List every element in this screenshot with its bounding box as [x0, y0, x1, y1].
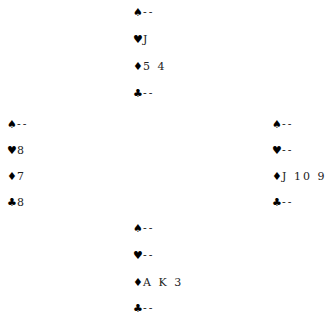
heart-icon: ♥	[272, 144, 282, 158]
spade-icon: ♠	[7, 118, 17, 132]
west-hearts-row: ♥8	[7, 144, 26, 158]
east-clubs-cards: --	[282, 196, 293, 209]
east-hearts-cards: --	[282, 144, 293, 157]
south-spades-cards: --	[143, 222, 154, 235]
club-icon: ♣	[133, 87, 143, 101]
south-clubs-row: ♣--	[133, 302, 154, 316]
north-hearts-cards: J	[143, 33, 149, 46]
club-icon: ♣	[272, 196, 282, 210]
south-diamonds-cards: A K 3	[143, 276, 183, 289]
north-spades-cards: --	[143, 6, 154, 19]
diamond-icon: ♦	[133, 276, 143, 290]
south-diamonds-row: ♦A K 3	[133, 276, 183, 290]
north-diamonds-row: ♦5 4	[133, 60, 167, 74]
east-diamonds-cards: J 10 9	[282, 170, 326, 183]
south-spades-row: ♠--	[133, 222, 154, 236]
club-icon: ♣	[133, 302, 143, 316]
east-diamonds-row: ♦J 10 9	[272, 170, 326, 184]
spade-icon: ♠	[272, 118, 282, 132]
north-diamonds-cards: 5 4	[143, 60, 167, 73]
west-spades-row: ♠--	[7, 118, 28, 132]
south-hearts-cards: --	[143, 249, 154, 262]
east-spades-row: ♠--	[272, 118, 293, 132]
heart-icon: ♥	[7, 144, 17, 158]
east-clubs-row: ♣--	[272, 196, 293, 210]
west-clubs-cards: 8	[17, 196, 26, 209]
spade-icon: ♠	[133, 222, 143, 236]
south-hearts-row: ♥--	[133, 249, 154, 263]
west-diamonds-row: ♦7	[7, 170, 26, 184]
club-icon: ♣	[7, 196, 17, 210]
north-clubs-cards: --	[143, 87, 154, 100]
diamond-icon: ♦	[7, 170, 17, 184]
west-clubs-row: ♣8	[7, 196, 26, 210]
east-hearts-row: ♥--	[272, 144, 293, 158]
diamond-icon: ♦	[133, 60, 143, 74]
west-hearts-cards: 8	[17, 144, 26, 157]
south-clubs-cards: --	[143, 302, 154, 315]
west-spades-cards: --	[17, 118, 28, 131]
north-hearts-row: ♥J	[133, 33, 149, 47]
diamond-icon: ♦	[272, 170, 282, 184]
heart-icon: ♥	[133, 249, 143, 263]
west-diamonds-cards: 7	[17, 170, 26, 183]
north-spades-row: ♠--	[133, 6, 154, 20]
north-clubs-row: ♣--	[133, 87, 154, 101]
east-spades-cards: --	[282, 118, 293, 131]
spade-icon: ♠	[133, 6, 143, 20]
heart-icon: ♥	[133, 33, 143, 47]
